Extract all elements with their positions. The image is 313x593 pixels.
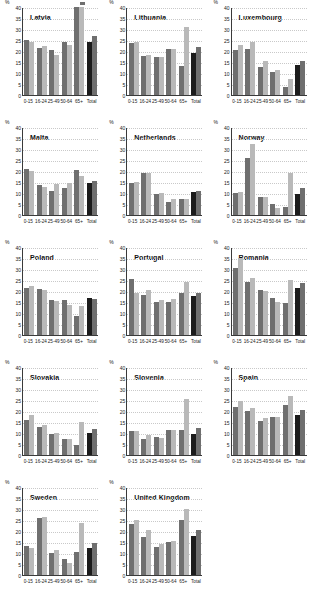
- x-axis-tick-label: 16-24: [139, 339, 151, 344]
- y-axis-tick-label: 25: [212, 39, 232, 44]
- y-axis-tick-label: 5: [107, 563, 127, 568]
- y-axis-tick-label: 15: [107, 541, 127, 546]
- plot-area: 0510152025303540: [231, 8, 307, 96]
- y-axis-tick-label: 30: [3, 268, 23, 273]
- bar-group: [232, 248, 243, 335]
- bar-group: [166, 128, 177, 215]
- x-axis-tick-label: Total: [294, 219, 306, 224]
- x-axis-labels: 0-1516-2425-4950-6465+Total: [22, 219, 98, 224]
- x-axis-labels: 0-1516-2425-4950-6465+Total: [126, 219, 202, 224]
- bar: [300, 61, 305, 95]
- x-axis-labels: 0-1516-2425-4950-6465+Total: [22, 459, 98, 464]
- chart-panel: %Lithuania05101520253035400-1516-2425-49…: [104, 0, 208, 120]
- y-axis-tick-label: 35: [107, 497, 127, 502]
- y-axis-tick-label: 35: [3, 137, 23, 142]
- chart-panel: %Latvia05101520253035400-1516-2425-4950-…: [0, 0, 104, 120]
- bar-group: [128, 8, 139, 95]
- x-axis-tick-label: 50-64: [269, 339, 281, 344]
- x-axis-tick-label: 65+: [177, 459, 189, 464]
- y-axis-tick-label: 10: [3, 192, 23, 197]
- x-axis-tick-label: 65+: [177, 99, 189, 104]
- bar-group: [49, 368, 60, 455]
- chart-panel: %Luxembourg05101520253035400-1516-2425-4…: [209, 0, 313, 120]
- x-axis-tick-label: Total: [294, 339, 306, 344]
- bar: [250, 278, 255, 335]
- y-axis-tick-label: 30: [3, 28, 23, 33]
- y-axis-tick-label: 40: [212, 6, 232, 11]
- y-axis-tick-label: 35: [107, 257, 127, 262]
- bar: [159, 57, 164, 95]
- bar-group: [232, 368, 243, 455]
- bar-series-container: [127, 368, 202, 455]
- y-axis-tick-label: 5: [212, 323, 232, 328]
- x-axis-tick-label: 16-24: [35, 459, 47, 464]
- x-axis-tick-label: 65+: [177, 579, 189, 584]
- y-axis-tick-label: 15: [212, 181, 232, 186]
- bar-group: [74, 368, 85, 455]
- bar-series-container: [232, 8, 307, 95]
- bar: [238, 192, 243, 215]
- y-axis-tick-label: 5: [107, 203, 127, 208]
- x-axis-tick-label: Total: [86, 579, 98, 584]
- bar-group: [86, 488, 97, 575]
- y-axis-tick-label: 35: [3, 497, 23, 502]
- x-axis-tick-label: 25-49: [152, 219, 164, 224]
- y-axis-tick-label: 25: [3, 39, 23, 44]
- bar: [67, 563, 72, 575]
- bar: [171, 541, 176, 575]
- bar: [29, 171, 34, 215]
- bar-group: [245, 368, 256, 455]
- x-axis-tick-label: 0-15: [127, 99, 139, 104]
- bar: [146, 173, 151, 215]
- y-axis-tick-label: 35: [3, 17, 23, 22]
- bar: [29, 286, 34, 335]
- y-axis-tick-label: 10: [107, 72, 127, 77]
- plot-area: 0510152025303540: [126, 248, 202, 336]
- bar-series-container: [232, 368, 307, 455]
- y-axis-tick-label: 15: [3, 421, 23, 426]
- y-axis-tick-label: 0: [107, 334, 127, 339]
- x-axis-tick-label: 16-24: [35, 579, 47, 584]
- bar-group: [86, 368, 97, 455]
- bar-group: [36, 488, 47, 575]
- x-axis-tick-label: 0-15: [231, 219, 243, 224]
- x-axis-tick-label: Total: [86, 459, 98, 464]
- y-axis-tick-label: 20: [212, 290, 232, 295]
- bar-group: [36, 248, 47, 335]
- y-axis-tick-label: 25: [212, 399, 232, 404]
- y-axis-tick-label: 20: [3, 530, 23, 535]
- x-axis-labels: 0-1516-2425-4950-6465+Total: [126, 99, 202, 104]
- y-axis-tick-label: 5: [3, 203, 23, 208]
- x-axis-tick-label: 25-49: [152, 459, 164, 464]
- bar-group: [245, 8, 256, 95]
- x-axis-tick-label: 0-15: [22, 339, 34, 344]
- bar-series-container: [127, 8, 202, 95]
- y-axis-tick-label: 30: [3, 148, 23, 153]
- bar-group: [24, 488, 35, 575]
- y-axis-tick-label: 15: [3, 541, 23, 546]
- y-axis-tick-label: 30: [107, 268, 127, 273]
- bar-group: [153, 248, 164, 335]
- x-axis-tick-label: Total: [86, 339, 98, 344]
- bar: [238, 258, 243, 335]
- bar: [250, 144, 255, 215]
- bar: [288, 396, 293, 455]
- bar-group: [191, 248, 202, 335]
- bar-group: [74, 488, 85, 575]
- bar: [159, 544, 164, 575]
- y-axis-tick-label: 10: [212, 432, 232, 437]
- bar: [146, 435, 151, 455]
- bar-group: [36, 128, 47, 215]
- bar: [196, 47, 201, 95]
- bar: [288, 280, 293, 335]
- y-axis-tick-label: 5: [107, 443, 127, 448]
- y-axis-tick-label: 10: [107, 432, 127, 437]
- y-axis-tick-label: 30: [107, 388, 127, 393]
- y-axis-tick-label: 40: [212, 246, 232, 251]
- bar: [67, 45, 72, 95]
- bar: [250, 42, 255, 95]
- x-axis-tick-label: Total: [190, 219, 202, 224]
- y-axis-tick-label: 10: [107, 312, 127, 317]
- bar-group: [141, 8, 152, 95]
- y-axis-tick-label: 15: [212, 61, 232, 66]
